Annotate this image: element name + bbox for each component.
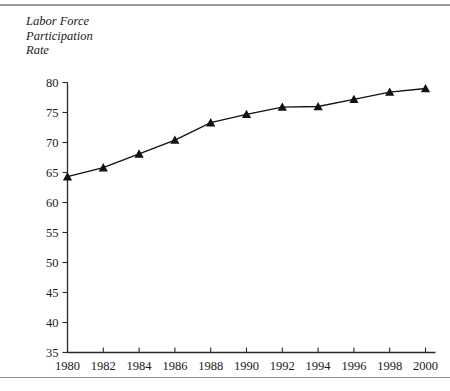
x-tick-label: 1990	[234, 359, 259, 373]
x-tick-label: 1992	[270, 359, 295, 373]
x-tick-label: 1998	[377, 359, 402, 373]
y-tick-label: 80	[46, 76, 59, 90]
y-tick-label: 75	[46, 106, 59, 120]
x-tick-label: 1984	[127, 359, 153, 373]
x-tick-label: 1980	[55, 359, 80, 373]
marker-triangle	[99, 163, 108, 171]
series-markers	[63, 84, 430, 181]
x-tick-label: 1988	[198, 359, 223, 373]
x-tick-label: 1994	[306, 359, 332, 373]
x-tick-label: 1986	[162, 359, 187, 373]
series-line-0	[68, 89, 426, 177]
marker-triangle	[421, 84, 430, 92]
marker-triangle	[170, 136, 179, 144]
x-tick-label: 2000	[413, 359, 438, 373]
y-tick-label: 55	[46, 226, 59, 240]
chart-plot-area: 35404550556065707580 1980198219841986198…	[0, 0, 450, 391]
x-tick-label: 1982	[91, 359, 116, 373]
y-tick-label: 40	[46, 316, 59, 330]
marker-triangle	[135, 149, 144, 157]
y-axis-ticks: 35404550556065707580	[46, 76, 68, 360]
x-tick-label: 1996	[341, 359, 366, 373]
x-axis-ticks: 1980198219841986198819901992199419961998…	[55, 348, 438, 373]
series-lines	[68, 89, 426, 177]
line-chart: 35404550556065707580 1980198219841986198…	[0, 0, 450, 391]
y-tick-label: 65	[46, 166, 59, 180]
y-tick-label: 50	[46, 256, 59, 270]
y-tick-label: 60	[46, 196, 59, 210]
y-tick-label: 45	[46, 286, 59, 300]
y-tick-label: 70	[46, 136, 59, 150]
